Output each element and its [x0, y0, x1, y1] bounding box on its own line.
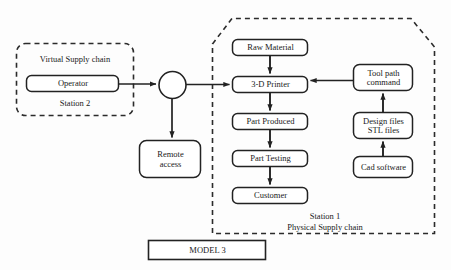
group-virtual-supply-chain-title: Virtual Supply chain — [16, 54, 134, 64]
group-physical-supply-chain-title: Physical Supply chain — [265, 222, 385, 232]
node-part-testing[interactable] — [233, 151, 308, 167]
node-raw-material[interactable] — [233, 40, 308, 56]
node-3d-printer[interactable] — [233, 77, 308, 93]
node-customer[interactable] — [233, 188, 308, 204]
group-virtual-supply-chain-station: Station 2 — [16, 98, 134, 108]
node-operator[interactable] — [27, 76, 119, 92]
node-model-title-box — [149, 241, 266, 260]
node-design-files[interactable] — [354, 113, 413, 139]
node-cad-software[interactable] — [354, 157, 413, 178]
node-part-produced[interactable] — [233, 114, 308, 130]
node-remote-access[interactable] — [140, 141, 201, 178]
group-physical-supply-chain-station: Station 1 — [275, 211, 375, 221]
node-junction[interactable] — [159, 72, 186, 99]
node-tool-path-command[interactable] — [354, 65, 413, 91]
diagram-canvas: Virtual Supply chain Station 2 Operator … — [0, 0, 451, 270]
